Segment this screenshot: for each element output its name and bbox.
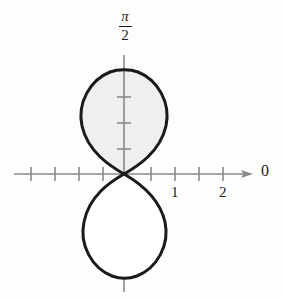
denominator-two: 2 (113, 28, 137, 44)
pi-symbol: π (113, 9, 137, 25)
polar-plot-canvas (0, 0, 284, 298)
theta-axis-label-0: 0 (261, 163, 269, 179)
axis-label-pi-over-two: π 2 (113, 9, 137, 44)
x-axis-label-1: 1 (171, 185, 179, 200)
lower-lobe-curve (83, 174, 166, 278)
x-axis-label-2: 2 (219, 185, 227, 200)
polar-plot-figure: π 2 1 2 0 (0, 0, 284, 298)
